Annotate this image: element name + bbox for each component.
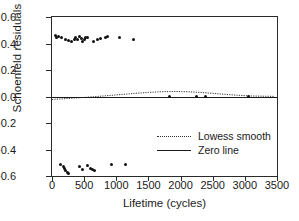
zero-line xyxy=(52,97,277,98)
data-point xyxy=(204,95,207,98)
y-tick-label: −0.4 xyxy=(0,145,16,155)
x-tick-mark xyxy=(277,177,278,181)
x-tick-mark xyxy=(116,177,117,181)
legend-label-lowess: Lowess smooth xyxy=(198,129,271,143)
data-point xyxy=(67,172,70,175)
lowess-line-swatch xyxy=(157,136,191,137)
x-tick-mark xyxy=(213,177,214,181)
x-tick-mark xyxy=(245,177,246,181)
x-axis-label: Lifetime (cycles) xyxy=(51,197,278,209)
legend: Lowess smooth Zero line xyxy=(157,129,271,157)
data-point xyxy=(92,40,95,43)
y-tick-label: 0.6 xyxy=(0,12,16,22)
data-point xyxy=(118,36,121,39)
data-point xyxy=(78,165,81,168)
legend-item-zero: Zero line xyxy=(157,143,271,157)
x-tick-mark xyxy=(52,177,53,181)
x-tick-mark xyxy=(84,177,85,181)
schoenfeld-residual-plot: Schoenfeld residuals Lifetime (cycles) −… xyxy=(0,0,299,221)
y-tick-label: −0.2 xyxy=(0,118,16,128)
data-point xyxy=(110,163,113,166)
legend-label-zero: Zero line xyxy=(198,143,239,157)
data-point xyxy=(96,38,99,41)
legend-item-lowess: Lowess smooth xyxy=(157,129,271,143)
y-tick-label: 0.2 xyxy=(0,65,16,75)
data-point xyxy=(60,36,63,39)
plot-frame: Lowess smooth Zero line xyxy=(51,16,278,177)
data-point xyxy=(57,35,60,38)
y-tick-label: 0.0 xyxy=(0,92,16,102)
x-tick-mark xyxy=(148,177,149,181)
x-tick-mark xyxy=(181,177,182,181)
y-tick-label: −0.6 xyxy=(0,171,16,181)
x-tick-label: 3500 xyxy=(257,180,297,191)
y-tick-label: 0.4 xyxy=(0,39,16,49)
data-point xyxy=(168,95,171,98)
zero-line-swatch xyxy=(157,150,191,151)
